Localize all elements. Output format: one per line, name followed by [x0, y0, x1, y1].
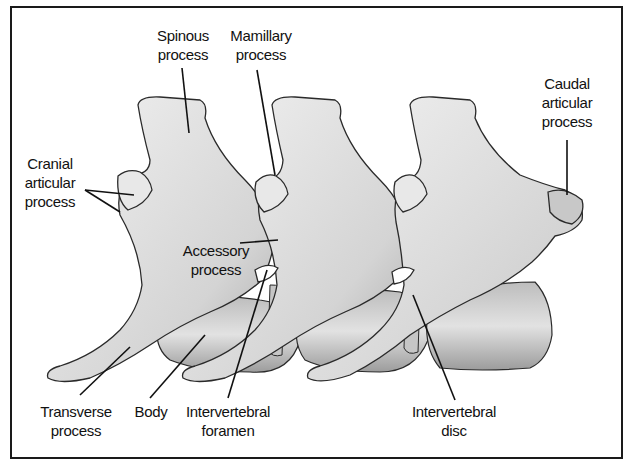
- label-intervertebral-disc: Intervertebral disc: [404, 402, 504, 440]
- label-body: Body: [128, 402, 174, 421]
- label-accessory-process: Accessory process: [180, 241, 252, 279]
- leader-mamillary-process: [257, 70, 275, 175]
- label-mamillary-process: Mamillary process: [222, 26, 300, 64]
- label-transverse-process: Transverse process: [36, 402, 116, 440]
- vertebrae-illustration: [0, 0, 628, 462]
- label-caudal-articular-process: Caudal articular process: [530, 74, 604, 131]
- label-spinous-process: Spinous process: [148, 26, 218, 64]
- label-cranial-articular-process: Cranial articular process: [12, 154, 88, 211]
- label-intervertebral-foramen: Intervertebral foramen: [178, 402, 278, 440]
